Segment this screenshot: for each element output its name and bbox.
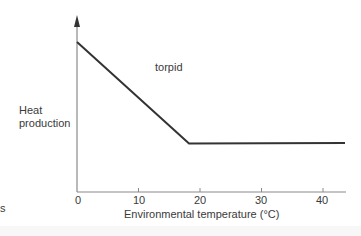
heat-production-line [77, 42, 345, 144]
y-axis-arrow-icon [74, 15, 80, 27]
tick-label-20: 20 [194, 194, 206, 206]
bottom-strip [0, 226, 361, 236]
tick-label-30: 30 [255, 194, 267, 206]
y-axis-label: Heat production [19, 104, 70, 130]
tick-label-0: 0 [75, 194, 81, 206]
tick-label-10: 10 [133, 194, 145, 206]
torpid-annotation: torpid [155, 61, 183, 74]
y-axis-label-line2: production [19, 117, 70, 130]
x-axis-label: Environmental temperature (°C) [124, 208, 279, 221]
chart-figure: Heat production torpid 0 10 20 30 40 Env… [0, 0, 361, 226]
tick-label-40: 40 [316, 194, 328, 206]
y-axis-label-line1: Heat [19, 104, 70, 117]
cropped-text-fragment: s [0, 202, 6, 215]
